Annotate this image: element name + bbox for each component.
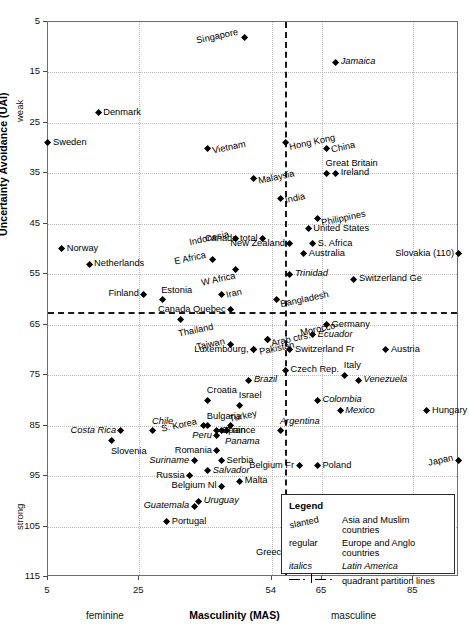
data-point-label: Uruguay bbox=[204, 495, 239, 505]
legend-label: Latin America bbox=[342, 561, 447, 571]
data-point-marker bbox=[314, 397, 321, 404]
data-point-label: Australia bbox=[309, 248, 345, 258]
data-point-label: S. Africa bbox=[318, 238, 353, 248]
plot-area: SingaporeJamaicaDenmarkSwedenVietnamHong… bbox=[47, 21, 458, 576]
y-tick-label: 105 bbox=[8, 520, 40, 531]
data-point-label: Switzerland Ge bbox=[359, 273, 422, 283]
gridline-horizontal bbox=[48, 325, 457, 326]
data-point-label: Trinidad bbox=[295, 268, 328, 278]
data-point-label: Romania bbox=[175, 445, 212, 455]
data-point-label: Japan bbox=[427, 453, 454, 468]
data-point-label: Belgium Fr bbox=[249, 460, 294, 470]
x-tick-mark bbox=[138, 576, 139, 580]
data-point-marker bbox=[44, 139, 51, 146]
data-point-marker bbox=[177, 316, 184, 323]
x-tick-label: 65 bbox=[301, 584, 341, 595]
data-point-marker bbox=[382, 346, 389, 353]
data-point-marker bbox=[350, 276, 357, 283]
data-point-label: New Zealand bbox=[230, 238, 285, 248]
x-axis-low-label: feminine bbox=[86, 610, 124, 621]
data-point-label: Sweden bbox=[53, 137, 87, 147]
data-point-label: Singapore bbox=[195, 27, 239, 46]
data-point-marker bbox=[209, 255, 216, 262]
quadrant-line-horizontal bbox=[48, 312, 457, 314]
y-tick-label: 5 bbox=[8, 15, 40, 26]
data-point-marker bbox=[264, 336, 271, 343]
data-point-label: Finland bbox=[108, 288, 139, 298]
data-point-marker bbox=[332, 170, 339, 177]
data-point-marker bbox=[455, 457, 462, 464]
data-point-label: Slovakia (110) bbox=[395, 248, 454, 258]
data-point-marker bbox=[186, 472, 193, 479]
legend-key: regular bbox=[289, 538, 342, 548]
data-point-label: Austria bbox=[391, 344, 420, 354]
data-point-marker bbox=[286, 240, 293, 247]
data-point-label: Costa Rica bbox=[71, 425, 116, 435]
y-tick-label: 55 bbox=[8, 267, 40, 278]
data-point-label: Jamaica bbox=[341, 56, 376, 66]
y-tick-label: 45 bbox=[8, 217, 40, 228]
data-point-label: Venezuela bbox=[364, 374, 408, 384]
data-point-label: Slovenia bbox=[111, 446, 147, 456]
data-point-marker bbox=[236, 402, 243, 409]
data-point-marker bbox=[218, 291, 225, 298]
data-point-label: Ecuador bbox=[318, 329, 353, 339]
data-point-marker bbox=[140, 291, 147, 298]
data-point-marker bbox=[204, 397, 211, 404]
data-point-marker bbox=[323, 144, 330, 151]
legend-label: Asia and Muslim countries bbox=[342, 515, 447, 535]
data-point-label: Ireland bbox=[341, 167, 369, 177]
data-point-label: Malta bbox=[245, 475, 268, 485]
gridline-horizontal bbox=[48, 224, 457, 225]
y-tick-label: 85 bbox=[8, 419, 40, 430]
data-point-marker bbox=[305, 225, 312, 232]
data-point-marker bbox=[85, 261, 92, 268]
x-axis-high-label: masculine bbox=[331, 610, 376, 621]
data-point-label: Estonia bbox=[161, 285, 192, 295]
data-point-marker bbox=[423, 407, 430, 414]
gridline-vertical bbox=[139, 22, 140, 575]
data-point-label: Brazil bbox=[254, 374, 277, 384]
data-point-marker bbox=[314, 462, 321, 469]
data-point-marker bbox=[323, 170, 330, 177]
data-point-marker bbox=[300, 250, 307, 257]
legend-row: italicsLatin America bbox=[289, 561, 447, 571]
data-point-marker bbox=[286, 271, 293, 278]
data-point-marker bbox=[158, 296, 165, 303]
data-point-label: Hungary bbox=[432, 405, 467, 415]
data-point-marker bbox=[250, 175, 257, 182]
data-point-label: Poland bbox=[322, 460, 351, 470]
data-point-label: Guatemala bbox=[144, 500, 189, 510]
data-point-marker bbox=[149, 427, 156, 434]
y-tick-label: 95 bbox=[8, 469, 40, 480]
data-point-label: Luxembourg, bbox=[194, 344, 248, 354]
x-tick-mark bbox=[47, 576, 48, 580]
legend-key: slanted bbox=[289, 510, 343, 531]
x-tick-mark bbox=[271, 576, 272, 580]
legend-row: regularEurope and Anglo countries bbox=[289, 538, 447, 558]
y-axis-strong-label: strong bbox=[14, 440, 25, 530]
data-point-label: United States bbox=[313, 223, 369, 233]
gridline-vertical bbox=[413, 22, 414, 575]
legend-key: italics bbox=[289, 561, 342, 571]
data-point-label: Israel bbox=[239, 390, 262, 400]
data-point-label: Portugal bbox=[172, 516, 207, 526]
x-tick-label: 25 bbox=[118, 584, 158, 595]
data-point-marker bbox=[163, 518, 170, 525]
data-point-label: Croatia bbox=[207, 385, 237, 395]
data-point-marker bbox=[236, 477, 243, 484]
data-point-label: Pakistan bbox=[258, 339, 295, 356]
legend-label: Europe and Anglo countries bbox=[342, 538, 447, 558]
gridline-horizontal bbox=[48, 123, 457, 124]
legend-box: Legend slantedAsia and Muslim countriesr… bbox=[281, 494, 455, 574]
y-axis-weak-label: weak bbox=[14, 32, 25, 122]
data-point-label: Peru bbox=[192, 430, 212, 440]
y-tick-label: 75 bbox=[8, 368, 40, 379]
data-point-label: Belgium Nl bbox=[172, 480, 217, 490]
data-point-marker bbox=[341, 372, 348, 379]
data-point-marker bbox=[455, 250, 462, 257]
data-point-marker bbox=[213, 447, 220, 454]
x-tick-label: 85 bbox=[392, 584, 432, 595]
x-axis-title: Masculinity (MAS) bbox=[0, 609, 469, 621]
data-point-label: Norway bbox=[67, 243, 99, 253]
